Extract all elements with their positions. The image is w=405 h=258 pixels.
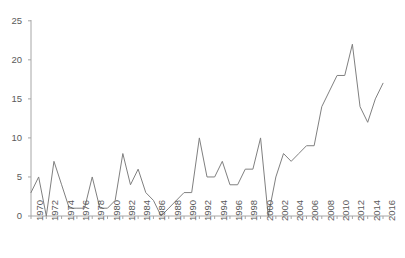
x-axis-tick-label: 1972 <box>50 200 60 221</box>
x-axis-tick-label: 2012 <box>356 200 366 221</box>
x-axis-tick-label: 2004 <box>295 200 305 221</box>
y-axis-tick-label: 0 <box>0 211 22 221</box>
x-axis-tick-label: 1980 <box>112 200 122 221</box>
x-axis-tick-label: 1998 <box>249 200 259 221</box>
x-axis-tick-label: 2008 <box>326 200 336 221</box>
x-axis-tick-label: 1986 <box>157 200 167 221</box>
x-axis-tick-label: 2000 <box>265 200 275 221</box>
x-axis-tick-label: 2014 <box>372 200 382 221</box>
data-series-line <box>31 44 383 216</box>
x-axis-tick-label: 2002 <box>280 200 290 221</box>
x-axis-tick-label: 1982 <box>127 200 137 221</box>
x-axis-tick-label: 1994 <box>219 200 229 221</box>
x-axis-tick-label: 1978 <box>96 200 106 221</box>
x-axis-tick-label: 2016 <box>387 200 397 221</box>
x-axis-tick-label: 2006 <box>310 200 320 221</box>
x-axis-tick-label: 2010 <box>341 200 351 221</box>
y-axis-tick-label: 25 <box>0 16 22 26</box>
x-axis-tick-label: 1992 <box>203 200 213 221</box>
x-axis-tick-label: 1990 <box>188 200 198 221</box>
x-axis-tick-label: 1988 <box>173 200 183 221</box>
axis-lines <box>31 20 390 216</box>
y-axis-tick-label: 10 <box>0 133 22 143</box>
x-axis-tick-label: 1974 <box>66 200 76 221</box>
x-axis-tick-label: 1984 <box>142 200 152 221</box>
x-axis-tick-label: 1976 <box>81 200 91 221</box>
y-axis-tick-label: 20 <box>0 55 22 65</box>
x-axis-tick-label: 1970 <box>35 200 45 221</box>
y-axis-tick-label: 5 <box>0 172 22 182</box>
line-chart: 0510152025 19701972197419761978198019821… <box>0 0 405 258</box>
y-axis-tick-label: 15 <box>0 94 22 104</box>
x-axis-tick-label: 1996 <box>234 200 244 221</box>
